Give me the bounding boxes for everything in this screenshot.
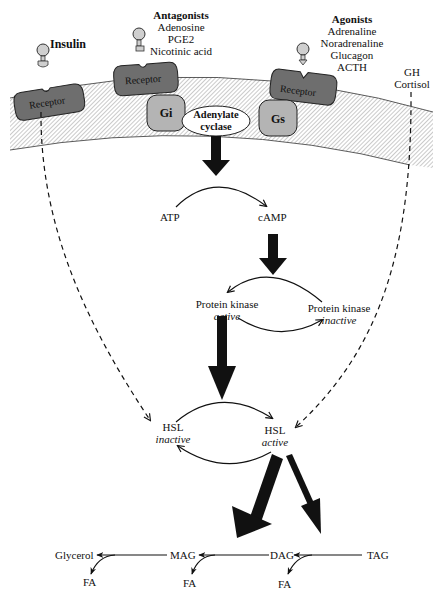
cyclase-to-camp-block-arrow [202,136,230,176]
dag-label: DAG [270,549,294,561]
agonist-item: Adrenaline [318,25,386,37]
camp-to-pk-block-arrow [259,234,287,275]
fa-label: FA [278,578,291,590]
agonists-heading: Agonists [318,13,386,25]
pk-inactive-label: Protein kinase inactive [300,302,378,326]
hsl-inactive-to-active-arrow [176,402,272,422]
cortisol-label: Cortisol [390,78,433,90]
pk-active-state: active [188,310,266,322]
camp-label: cAMP [258,211,287,223]
adenylate-cyclase-label: Adenylate cyclase [186,109,246,133]
pk-inactive-state: inactive [300,314,378,326]
agonist-item: Glucagon [318,49,386,61]
hsl-active-label: HSL active [250,424,300,448]
mag-label: MAG [170,549,196,561]
pk-active-label: Protein kinase active [188,298,266,322]
antagonist-ligand-icon [133,28,145,51]
hsl-inactive-label: HSL inactive [148,421,198,445]
hsl-to-dag-block-arrow [286,454,321,534]
hsl-active-name: HSL [250,424,300,436]
fa-label: FA [83,576,96,588]
insulin-label: Insulin [50,38,86,50]
agonist-item: ACTH [318,61,386,73]
agonist-item: Noradrenaline [318,37,386,49]
glycerol-label: Glycerol [55,549,93,561]
atp-to-camp-arrow [176,187,266,207]
antagonists-heading: Antagonists [148,9,214,21]
gi-label: Gi [158,107,174,119]
pk-inactive-name: Protein kinase [300,302,378,314]
gs-label: Gs [270,113,286,125]
tag-label: TAG [367,549,389,561]
hsl-active-state: active [250,436,300,448]
antagonist-item: PGE2 [148,33,214,45]
fa-label: FA [183,577,196,589]
adenylate-cyclase-line1: Adenylate [186,109,246,121]
hsl-inactive-state: inactive [148,433,198,445]
agonists-block: Agonists Adrenaline Noradrenaline Glucag… [318,13,386,73]
pk-active-name: Protein kinase [188,298,266,310]
hsl-inactive-name: HSL [148,421,198,433]
hsl-active-to-inactive-arrow [178,446,271,464]
atp-label: ATP [160,211,180,223]
antagonist-item: Adenosine [148,21,214,33]
pk-to-hsl-block-arrow [208,316,236,400]
insulin-ligand-icon [37,44,49,67]
adenylate-cyclase-line2: cyclase [186,121,246,133]
glycerol-fa-release-arrow [91,555,115,574]
agonist-ligand-icon [297,43,309,65]
gh-cortisol-block: GH Cortisol [390,66,433,90]
antagonists-block: Antagonists Adenosine PGE2 Nicotinic aci… [148,9,214,57]
antagonist-item: Nicotinic acid [148,45,214,57]
gh-label: GH [390,66,433,78]
hsl-to-mag-block-arrow [232,454,283,538]
insulin-signal-dashed-arrow [41,112,150,420]
